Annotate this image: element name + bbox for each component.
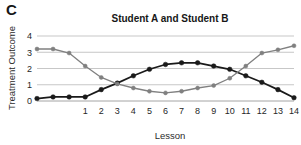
- data-point: [227, 67, 232, 72]
- x-tick-labels: 1234567891011121314: [83, 106, 299, 116]
- data-point: [51, 95, 56, 100]
- data-point: [292, 95, 297, 100]
- y-tick-label: 3: [27, 48, 32, 58]
- data-point: [244, 74, 249, 79]
- y-tick-labels: 01234: [27, 31, 32, 106]
- y-tick-label: 4: [27, 31, 32, 41]
- data-point: [51, 47, 55, 51]
- data-point: [35, 96, 40, 101]
- data-point: [131, 86, 135, 90]
- data-point: [99, 75, 103, 79]
- y-tick-label: 1: [27, 80, 32, 90]
- data-point: [211, 64, 216, 69]
- x-tick-label: 10: [225, 106, 235, 116]
- data-point: [179, 61, 184, 66]
- gridlines: [37, 36, 294, 85]
- data-point: [67, 51, 71, 55]
- x-tick-label: 4: [131, 106, 136, 116]
- x-tick-label: 1: [83, 106, 88, 116]
- data-point: [164, 91, 168, 95]
- chart-title: Student A and Student B: [111, 13, 228, 24]
- data-point: [195, 61, 200, 66]
- data-point: [196, 86, 200, 90]
- data-point: [83, 64, 87, 68]
- line-chart: Student A and Student B 01234 1234567891…: [0, 0, 301, 145]
- y-tick-label: 0: [27, 96, 32, 106]
- data-point: [147, 89, 151, 93]
- data-point: [212, 84, 216, 88]
- data-point: [99, 87, 104, 92]
- y-axis-title: Treatment Outcome: [6, 26, 17, 110]
- data-point: [131, 74, 136, 79]
- series-2: [35, 44, 296, 95]
- data-point: [228, 76, 232, 80]
- x-tick-label: 7: [179, 106, 184, 116]
- data-point: [260, 51, 264, 55]
- x-axis-title: Lesson: [155, 130, 186, 141]
- y-tick-label: 2: [27, 64, 32, 74]
- x-tick-label: 8: [195, 106, 200, 116]
- series-line-2: [37, 46, 294, 93]
- data-point: [147, 67, 152, 72]
- chart-panel: C Student A and Student B 01234 12345678…: [0, 0, 301, 145]
- x-tick-label: 12: [257, 106, 267, 116]
- x-tick-label: 3: [115, 106, 120, 116]
- data-point: [67, 95, 72, 100]
- x-tick-label: 6: [163, 106, 168, 116]
- x-tick-label: 2: [99, 106, 104, 116]
- x-tick-label: 14: [289, 106, 299, 116]
- x-tick-label: 11: [241, 106, 250, 116]
- data-point: [276, 87, 281, 92]
- x-tick-label: 5: [147, 106, 152, 116]
- data-point: [35, 47, 39, 51]
- data-point: [180, 89, 184, 93]
- data-point: [244, 64, 248, 68]
- data-point: [115, 82, 119, 86]
- data-point: [292, 44, 296, 48]
- data-point: [276, 48, 280, 52]
- data-point: [83, 95, 88, 100]
- x-tick-label: 9: [211, 106, 216, 116]
- data-point: [163, 62, 168, 67]
- x-tick-label: 13: [273, 106, 283, 116]
- data-point: [260, 80, 265, 85]
